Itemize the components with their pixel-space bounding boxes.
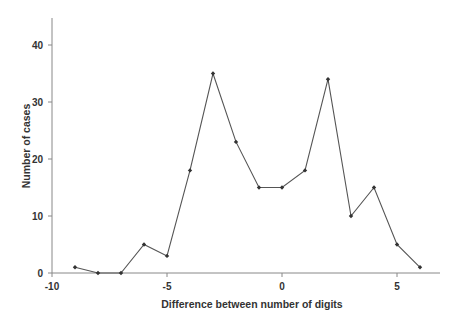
data-point-marker [73, 265, 77, 269]
axes [48, 18, 440, 277]
x-tick-label: -5 [163, 281, 172, 292]
x-axis-title: Difference between number of digits [161, 298, 343, 310]
y-tick-label: 20 [32, 154, 44, 165]
x-tick-label: 0 [279, 281, 285, 292]
data-point-marker [211, 71, 215, 75]
x-tick-label: 5 [394, 281, 400, 292]
line-chart: 010203040-10-505 Difference between numb… [0, 0, 461, 324]
data-series [73, 71, 422, 275]
tick-labels: 010203040-10-505 [32, 40, 400, 293]
data-point-marker [165, 254, 169, 258]
x-tick-label: -10 [45, 281, 60, 292]
data-point-marker [326, 77, 330, 81]
data-point-marker [188, 168, 192, 172]
y-tick-label: 40 [32, 40, 44, 51]
data-point-marker [257, 185, 261, 189]
data-point-marker [96, 271, 100, 275]
data-point-marker [234, 140, 238, 144]
y-tick-label: 10 [32, 211, 44, 222]
y-tick-label: 0 [37, 268, 43, 279]
y-tick-label: 30 [32, 97, 44, 108]
series-line [75, 74, 420, 274]
y-axis-title: Number of cases [20, 104, 32, 189]
